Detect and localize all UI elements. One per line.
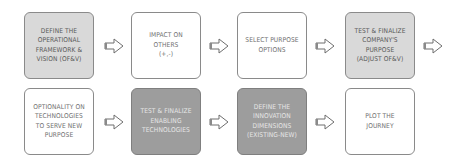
outline-right-arrow-icon [103, 114, 125, 130]
step-label: Test & finalize enabling technologies [137, 107, 194, 136]
step-select-purpose-options: Select purpose options [237, 12, 307, 79]
step-define-innovation-dimensions: Define the innovation dimensions (existi… [237, 88, 307, 155]
outline-right-arrow-icon [422, 38, 444, 54]
step-label: Define the operational framework & visio… [33, 27, 85, 65]
step-optionality-on-technologies: Optionality on technologies to serve new… [24, 88, 94, 155]
step-test-finalize-technologies: Test & finalize enabling technologies [131, 88, 201, 155]
outline-right-arrow-icon [208, 38, 230, 54]
step-label: Define the innovation dimensions (existi… [244, 103, 300, 141]
outline-right-arrow-icon [103, 38, 125, 54]
outline-right-arrow-icon [208, 114, 230, 130]
step-label: Test & finalize company's purpose (adjus… [351, 27, 408, 65]
step-plot-the-journey: Plot the journey [345, 88, 415, 155]
step-label: Select purpose options [242, 36, 301, 55]
step-label: Plot the journey [362, 112, 397, 131]
step-label: Optionality on technologies to serve new… [30, 103, 87, 141]
step-test-finalize-purpose: Test & finalize company's purpose (adjus… [345, 12, 415, 79]
outline-right-arrow-icon [314, 114, 336, 130]
step-define-operational-framework: Define the operational framework & visio… [24, 12, 94, 79]
step-label: Impact on others (+,-) [146, 31, 186, 60]
step-impact-on-others: Impact on others (+,-) [131, 12, 201, 79]
outline-right-arrow-icon [314, 38, 336, 54]
